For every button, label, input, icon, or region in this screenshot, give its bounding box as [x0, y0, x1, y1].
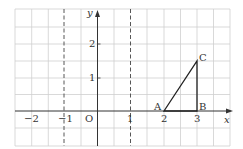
y-axis-label: y	[86, 7, 93, 18]
x-axis-label: x	[224, 114, 230, 125]
axes	[15, 14, 228, 146]
x-tick-label-minus-1: −1	[58, 113, 73, 124]
x-tick-label-minus-2: −2	[24, 113, 39, 124]
coordinate-plane: y x O −2 −1 1 2 3 2 1 A B C	[0, 0, 243, 149]
point-label-b: B	[199, 101, 206, 112]
x-tick-label-2: 2	[161, 113, 167, 124]
y-tick-label-1: 1	[89, 72, 95, 83]
y-axis-arrow-icon	[95, 10, 100, 17]
x-tick-label-1: 1	[127, 113, 133, 124]
origin-label: O	[85, 113, 93, 124]
x-tick-label-3: 3	[194, 113, 200, 124]
point-label-a: A	[153, 101, 162, 112]
grid	[15, 9, 230, 146]
y-tick-label-2: 2	[89, 38, 95, 49]
point-label-c: C	[199, 52, 207, 63]
x-axis-arrow-icon	[226, 109, 233, 114]
